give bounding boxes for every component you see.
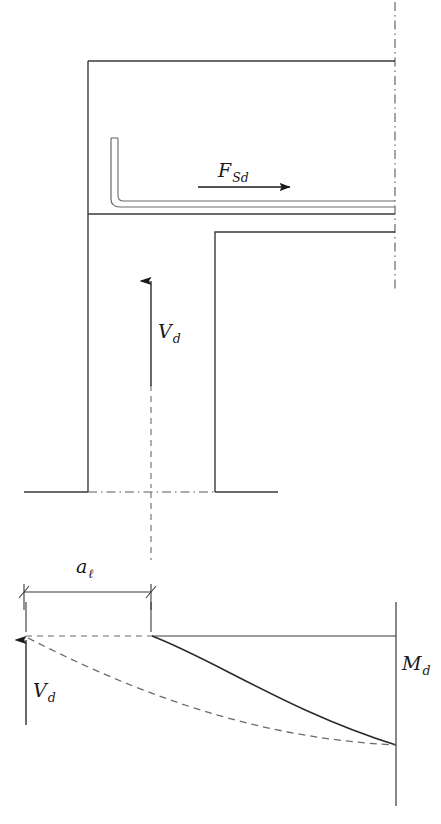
corbel-stem-outline <box>215 232 395 492</box>
moment-diagram: Vd Md <box>26 602 430 806</box>
shear-vd-label-upper: Vd <box>158 320 181 346</box>
lever-arm-label: aℓ <box>76 555 94 581</box>
structural-diagram: FSd Vd aℓ <box>0 0 441 824</box>
structure-section: FSd Vd <box>24 2 395 560</box>
moment-curve-dashed <box>28 638 396 745</box>
force-fsd-label: FSd <box>217 159 249 185</box>
moment-curve-solid <box>152 636 396 745</box>
figure-root: FSd Vd aℓ <box>0 0 441 824</box>
dimension-lever-arm: aℓ <box>19 555 156 610</box>
moment-md-label: Md <box>401 652 430 678</box>
rebar-outline-inner <box>118 138 395 201</box>
shear-vd-label-lower: Vd <box>33 679 56 705</box>
rebar-outline <box>111 138 395 207</box>
